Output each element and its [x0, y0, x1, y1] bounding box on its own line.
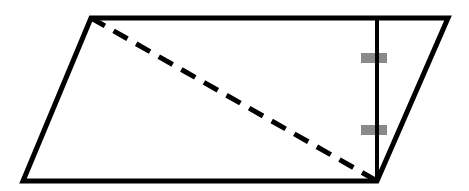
dashed-diagonal — [91, 18, 377, 181]
tick-mark — [361, 125, 387, 135]
congruence-tick-marks — [361, 53, 387, 135]
parallelogram-diagram — [0, 0, 469, 191]
tick-mark — [361, 53, 387, 63]
